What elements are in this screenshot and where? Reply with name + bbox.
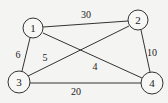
edge-1-2: [43, 21, 128, 27]
edge-weight-2-4: 10: [147, 47, 157, 58]
graph-diagram: 30 6 5 4 10 20 1 2 3 4: [0, 0, 168, 103]
edge-weight-3-4: 20: [71, 86, 81, 97]
node-label-2: 2: [135, 14, 141, 26]
node-2: 2: [128, 10, 148, 30]
graph-svg: 30 6 5 4 10 20 1 2 3 4: [0, 0, 168, 103]
edge-1-3: [22, 38, 30, 71]
node-3: 3: [8, 71, 30, 93]
edge-weight-1-3: 6: [16, 49, 21, 60]
node-4: 4: [141, 72, 163, 94]
edge-weight-1-4: 4: [93, 61, 98, 72]
edge-weight-3-2: 5: [43, 52, 48, 63]
node-1: 1: [23, 18, 43, 38]
edge-weight-1-2: 30: [81, 9, 91, 20]
node-label-4: 4: [149, 77, 155, 89]
node-label-1: 1: [30, 22, 36, 34]
node-label-3: 3: [16, 76, 22, 88]
